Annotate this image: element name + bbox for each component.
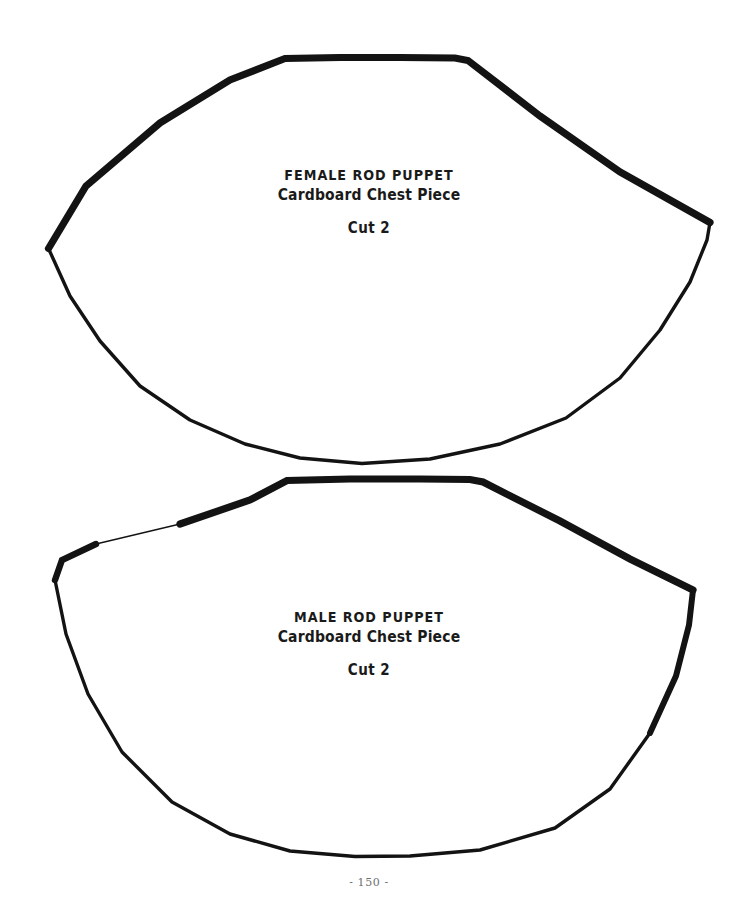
female-chest-piece-title: FEMALE ROD PUPPET	[44, 166, 693, 185]
pattern-page: FEMALE ROD PUPPET Cardboard Chest Piece …	[0, 0, 738, 921]
female-chest-piece-shape	[49, 58, 711, 464]
page-number: - 150 -	[0, 876, 738, 889]
male-chest-piece-faded-left-edge	[96, 524, 180, 544]
female-chest-piece-label: FEMALE ROD PUPPET Cardboard Chest Piece …	[0, 166, 738, 238]
female-chest-piece-bottom-arc	[49, 223, 711, 464]
female-chest-piece-subtitle: Cardboard Chest Piece	[37, 185, 701, 205]
male-chest-piece-subtitle: Cardboard Chest Piece	[37, 627, 701, 647]
male-chest-piece-label: MALE ROD PUPPET Cardboard Chest Piece Cu…	[0, 608, 738, 680]
male-chest-piece-title: MALE ROD PUPPET	[44, 608, 693, 627]
pattern-diagram	[0, 0, 738, 921]
male-chest-piece-cut-instruction: Cut 2	[37, 660, 701, 680]
female-chest-piece-cut-instruction: Cut 2	[37, 218, 701, 238]
male-chest-piece-left-corner	[55, 544, 96, 580]
male-chest-piece-top-edge	[180, 479, 693, 590]
